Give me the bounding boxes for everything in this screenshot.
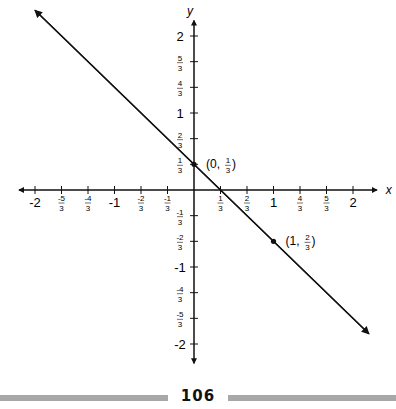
x-tick-label: -43 (84, 194, 92, 213)
svg-text:-1: -1 (176, 208, 184, 217)
svg-text:1: 1 (178, 156, 183, 165)
y-tick-label: -53 (176, 310, 184, 329)
svg-text:3: 3 (59, 204, 64, 213)
svg-text:): ) (312, 234, 316, 248)
svg-text:2: 2 (245, 194, 250, 203)
svg-text:3: 3 (298, 204, 303, 213)
y-tick-label: -23 (176, 233, 184, 252)
svg-text:3: 3 (178, 89, 183, 98)
y-tick-label: -43 (176, 285, 184, 304)
footer-rule-right (228, 395, 396, 401)
point-1-neg2-3-label: (1,23) (286, 233, 316, 252)
svg-text:1: 1 (226, 156, 231, 165)
y-tick-label: 43 (177, 79, 183, 98)
svg-text:-5: -5 (176, 310, 184, 319)
y-tick-label: 13 (177, 156, 183, 175)
x-tick-label: -1 (109, 195, 121, 210)
y-tick-label: 23 (177, 131, 183, 150)
x-tick-label: 13 (218, 194, 224, 213)
svg-text:1: 1 (218, 194, 223, 203)
svg-text:4: 4 (178, 79, 183, 88)
y-tick-label: -13 (176, 208, 184, 227)
x-tick-label: -53 (58, 194, 66, 213)
x-tick-label: 2 (349, 195, 356, 210)
x-tick-label: 23 (244, 194, 250, 213)
svg-text:-4: -4 (176, 285, 184, 294)
svg-text:(1,: (1, (286, 234, 300, 248)
svg-text:3: 3 (86, 204, 91, 213)
x-tick-label: 53 (324, 194, 330, 213)
svg-text:3: 3 (178, 166, 183, 175)
svg-text:3: 3 (178, 64, 183, 73)
svg-text:3: 3 (178, 243, 183, 252)
svg-text:3: 3 (178, 141, 183, 150)
svg-text:-1: -1 (164, 194, 172, 203)
x-axis-label: x (385, 183, 393, 197)
svg-text:5: 5 (178, 54, 183, 63)
x-tick-label: -2 (29, 195, 41, 210)
svg-text:2: 2 (178, 131, 183, 140)
y-tick-label: 1 (176, 106, 183, 121)
svg-text:3: 3 (178, 295, 183, 304)
y-tick-label: 2 (176, 29, 183, 44)
svg-text:3: 3 (139, 204, 144, 213)
svg-text:(0,: (0, (206, 157, 220, 171)
svg-text:4: 4 (298, 194, 303, 203)
plotted-line (35, 10, 369, 333)
footer-rule-left (0, 395, 168, 401)
svg-text:3: 3 (178, 218, 183, 227)
y-tick-label: 53 (177, 54, 183, 73)
svg-text:3: 3 (245, 204, 250, 213)
point-0-1-3-label: (0,13) (206, 156, 236, 175)
y-axis-label: y (186, 4, 194, 18)
svg-text:3: 3 (324, 204, 329, 213)
svg-text:2: 2 (305, 233, 310, 242)
svg-text:3: 3 (178, 320, 183, 329)
svg-text:3: 3 (218, 204, 223, 213)
page-number: 106 (170, 387, 226, 405)
svg-text:-4: -4 (84, 194, 92, 203)
y-tick-label: -2 (174, 337, 186, 352)
x-tick-label: 43 (297, 194, 303, 213)
svg-text:3: 3 (165, 204, 170, 213)
svg-text:-2: -2 (137, 194, 145, 203)
point-0-1-3-dot (191, 162, 196, 167)
svg-text:-2: -2 (176, 233, 184, 242)
point-1-neg2-3-dot (271, 239, 276, 244)
svg-text:-5: -5 (58, 194, 66, 203)
svg-text:): ) (232, 157, 236, 171)
x-tick-label: 1 (270, 195, 277, 210)
x-tick-label: -13 (164, 194, 172, 213)
coordinate-plane: xy -2-53-43-1-23-1313231435322534312313-… (0, 0, 396, 387)
axes: xy (19, 4, 393, 364)
y-tick-label: -1 (174, 260, 186, 275)
page-footer: 106 (0, 387, 396, 409)
svg-text:3: 3 (305, 243, 310, 252)
svg-text:3: 3 (226, 166, 231, 175)
x-tick-label: -23 (137, 194, 145, 213)
svg-text:5: 5 (324, 194, 329, 203)
